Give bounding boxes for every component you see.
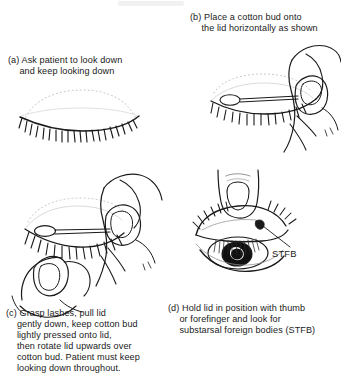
panel-b-caption-line-2: the lid horizontally as shown [201, 23, 317, 33]
panel-b-illustration [211, 46, 341, 152]
panel-a-caption-line-1: Ask patient to look down [22, 55, 123, 65]
panel-b-label: (b) [190, 12, 201, 22]
stfb-annotation-label: STFB [272, 248, 297, 259]
caption-panel-d: (d) Hold lid in position with thumb or f… [168, 303, 315, 336]
caption-panel-b: (b) Place a cotton bud onto the lid hori… [190, 12, 318, 34]
panel-a-illustration [19, 90, 139, 142]
panel-a-label: (a) [8, 55, 19, 65]
panel-c-caption-line-6: looking down throughout. [17, 363, 121, 373]
eyelid-eversion-figure: (a) Ask patient to look down and keep lo… [0, 0, 341, 381]
panel-d-caption-line-3: substarsal foreign bodies (STFB) [179, 325, 315, 335]
panel-c-caption-line-5: cotton bud. Patient must keep [17, 352, 140, 362]
caption-panel-a: (a) Ask patient to look down and keep lo… [8, 55, 122, 77]
panel-d-caption-line-1: Hold lid in position with thumb [182, 303, 305, 313]
panel-c-caption-line-3: lightly pressed onto lid, [17, 330, 112, 340]
panel-c-illustration [12, 174, 162, 317]
panel-d-label: (d) [168, 303, 179, 313]
panel-c-caption-line-2: gently down, keep cotton bud [17, 319, 138, 329]
caption-panel-c: (c) Grasp lashes, pull lid gently down, … [6, 308, 140, 375]
panel-b-caption-line-1: Place a cotton bud onto [204, 12, 302, 22]
panel-c-label: (c) [6, 308, 17, 318]
panel-c-caption-line-4: then rotate lid upwards over [17, 341, 132, 351]
scan-artifact [118, 1, 184, 6]
panel-d-caption-line-2: or forefinger and look for [179, 314, 280, 324]
panel-a-caption-line-2: and keep looking down [19, 66, 114, 76]
panel-c-caption-line-1: Grasp lashes, pull lid [20, 308, 106, 318]
